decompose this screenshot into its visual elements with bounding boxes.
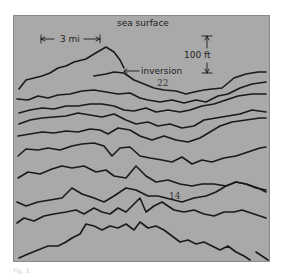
figure-caption: Fig. 3. — [13, 267, 31, 274]
value-14-label: 14 — [169, 191, 180, 201]
value-22-label: 22 — [157, 78, 168, 88]
sonar-record-panel: sea surface 3 mi 100 ft inversion 22 14 — [13, 15, 270, 262]
vertical-scale-label: 100 ft — [184, 51, 211, 60]
inversion-label: inversion — [141, 67, 182, 76]
horizontal-scale-label: 3 mi — [60, 35, 80, 44]
inversion-arrow — [124, 69, 139, 73]
scattering-layers-traces — [14, 16, 270, 262]
sea-surface-label: sea surface — [117, 19, 169, 28]
